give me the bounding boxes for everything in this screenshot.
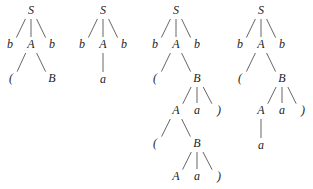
tree-node: ( bbox=[238, 71, 243, 85]
tree-edge bbox=[17, 53, 26, 72]
tree-node: A bbox=[26, 37, 35, 51]
tree-edge bbox=[162, 119, 171, 137]
tree-node: b bbox=[121, 37, 127, 51]
tree-edge bbox=[16, 19, 25, 38]
tree-edge bbox=[267, 19, 276, 38]
tree-edge bbox=[182, 119, 191, 137]
tree-edge bbox=[182, 19, 191, 38]
parse-tree-3 bbox=[161, 19, 212, 170]
tree-node: S bbox=[100, 3, 106, 17]
tree-node: b bbox=[7, 37, 13, 51]
tree-node: b bbox=[79, 37, 85, 51]
tree-edge bbox=[183, 152, 192, 170]
tree-node: a bbox=[194, 103, 200, 117]
tree-node: B bbox=[193, 71, 201, 85]
tree-node: ( bbox=[153, 71, 158, 85]
tree-node: B bbox=[193, 136, 201, 150]
tree-edge bbox=[268, 87, 276, 104]
tree-edge bbox=[88, 19, 97, 38]
tree-node: a bbox=[194, 169, 200, 183]
tree-node: ) bbox=[216, 169, 221, 183]
tree-edge bbox=[37, 53, 46, 72]
tree-edge bbox=[203, 152, 212, 170]
tree-edge bbox=[246, 53, 255, 72]
tree-node: a bbox=[100, 72, 106, 86]
tree-node: a bbox=[279, 103, 285, 117]
tree-node: S bbox=[258, 3, 264, 17]
tree-edge bbox=[267, 53, 276, 72]
tree-node: b bbox=[49, 37, 55, 51]
tree-node: ) bbox=[300, 103, 305, 117]
tree-node: b bbox=[279, 37, 285, 51]
tree-edge bbox=[109, 19, 118, 38]
tree-node: A bbox=[171, 37, 180, 51]
tree-node: ) bbox=[216, 103, 221, 117]
tree-edge bbox=[161, 53, 170, 72]
tree-nodes: SbAb(BSbAbaSbAb(BAa)(BAa)SbAb(BAa)a bbox=[7, 3, 305, 183]
tree-node: A bbox=[256, 103, 265, 117]
tree-edge bbox=[161, 19, 170, 38]
tree-node: A bbox=[98, 37, 107, 51]
tree-node: S bbox=[173, 3, 179, 17]
tree-edge bbox=[37, 19, 46, 38]
tree-node: a bbox=[258, 138, 264, 152]
tree-node: ( bbox=[153, 136, 158, 150]
tree-node: A bbox=[171, 169, 180, 183]
tree-node: A bbox=[256, 37, 265, 51]
tree-node: B bbox=[48, 71, 56, 85]
tree-node: b bbox=[194, 37, 200, 51]
parse-tree-4 bbox=[246, 19, 296, 138]
tree-edge bbox=[246, 19, 255, 38]
tree-edge bbox=[183, 87, 191, 104]
tree-edge bbox=[203, 87, 212, 104]
tree-node: B bbox=[278, 71, 286, 85]
tree-node: ( bbox=[9, 71, 14, 85]
tree-node: b bbox=[237, 37, 243, 51]
tree-edge bbox=[288, 87, 296, 104]
tree-node: A bbox=[171, 103, 180, 117]
tree-edge bbox=[182, 53, 191, 72]
parse-tree-diagram: SbAb(BSbAbaSbAb(BAa)(BAa)SbAb(BAa)a bbox=[0, 0, 313, 189]
tree-node: b bbox=[152, 37, 158, 51]
tree-node: S bbox=[28, 3, 34, 17]
